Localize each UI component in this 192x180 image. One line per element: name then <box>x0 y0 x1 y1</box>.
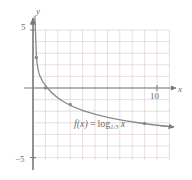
curve-marker-point <box>69 103 72 106</box>
equation-function-name: f(x) <box>74 118 88 129</box>
equation-argument: x <box>121 118 125 129</box>
log-curve-group <box>35 17 174 128</box>
curve-markers <box>35 56 147 125</box>
equation-log-word: log <box>98 118 111 129</box>
y-axis-tick-label-bottom: −5 <box>15 155 25 164</box>
logarithm-graph-figure: y x 5 −5 10 f(x)=log1/3x <box>0 0 192 180</box>
function-equation-annotation: f(x)=log1/3x <box>74 119 125 130</box>
y-axis-tick-label-top: 5 <box>21 23 26 32</box>
x-axis-tick-label-ten: 10 <box>150 92 159 101</box>
y-axis-label: y <box>36 7 40 16</box>
log-curve <box>35 17 170 127</box>
curve-marker-point <box>44 86 47 89</box>
plot-canvas <box>0 0 192 180</box>
equation-equals-sign: = <box>90 118 96 129</box>
x-axis-label: x <box>178 85 182 94</box>
curve-marker-point <box>143 122 146 125</box>
curve-marker-point <box>35 56 38 59</box>
curve-arrow-tail <box>160 126 174 127</box>
equation-log-base: 1/3 <box>110 123 118 130</box>
